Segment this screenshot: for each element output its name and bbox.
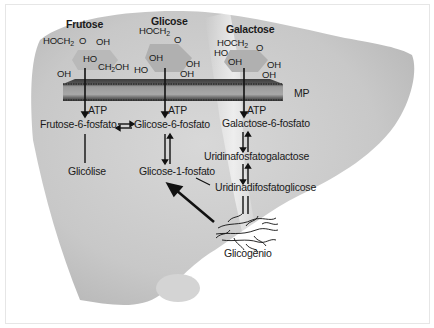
glicose-oh-bottom: OH xyxy=(180,68,194,79)
glicose-ho: HO xyxy=(134,64,148,75)
frutose-hoch2: HOCH2 xyxy=(43,35,74,47)
frutose-ho: HO xyxy=(83,53,97,64)
node-galactose-6-fosfato: Galactose-6-fosfato xyxy=(222,117,310,129)
galactose-oh-bottom: OH xyxy=(262,69,276,80)
glicose-o: O xyxy=(174,34,181,45)
membrane-label: MP xyxy=(294,87,309,99)
glicose-hoch2: HOCH2 xyxy=(139,25,170,37)
node-uridinadifosfatoglicose: Uridinadifosfatoglicose xyxy=(215,181,316,193)
frutose-oh-left: OH xyxy=(57,68,71,79)
plasma-membrane xyxy=(63,79,283,101)
frutose-oh-top: OH xyxy=(96,36,110,47)
galactose-oh-left: OH xyxy=(228,56,242,67)
node-glicogenio: Glicogênio xyxy=(224,247,272,259)
atp-label-glicose: ATP xyxy=(168,104,187,116)
node-glicolise: Glicólise xyxy=(68,165,106,177)
galactose-o: O xyxy=(256,42,263,53)
atp-label-frutose: ATP xyxy=(88,104,107,116)
node-frutose-6-fosfato: Frutose-6-fosfato xyxy=(40,118,117,130)
frutose-ch2oh: CH2OH xyxy=(98,61,129,73)
glicose-oh-left: OH xyxy=(149,52,163,63)
sugar-title-galactose: Galactose xyxy=(226,23,274,35)
frutose-o: O xyxy=(79,35,86,46)
atp-label-galactose: ATP xyxy=(247,104,266,116)
node-glicose-1-fosfato: Glicose-1-fosfato xyxy=(139,165,215,177)
node-uridinafosfatogalactose: Uridinafosfatogalactose xyxy=(204,150,309,162)
liver-lobe xyxy=(156,274,200,302)
node-glicose-6-fosfato: Glicose-6-fosfato xyxy=(134,118,210,130)
galactose-ho: HO xyxy=(214,47,228,58)
sugar-title-frutose: Frutose xyxy=(66,18,103,30)
